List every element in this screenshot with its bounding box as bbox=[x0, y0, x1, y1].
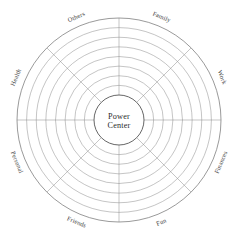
spoke-1 bbox=[137, 138, 191, 192]
wheel-of-life-diagram: Power Center FamilyWorkFinancesFunFriend… bbox=[0, 0, 238, 240]
spoke-3 bbox=[47, 138, 101, 192]
sector-label-family: Family bbox=[152, 10, 173, 24]
sector-label-friends: Friends bbox=[66, 214, 88, 228]
power-center-group: Power Center bbox=[94, 95, 144, 145]
power-center-label-line1: Power bbox=[108, 112, 130, 121]
sector-label-health: Health bbox=[9, 67, 23, 87]
sector-label-others: Others bbox=[66, 10, 86, 23]
spoke-5 bbox=[47, 48, 101, 102]
sector-label-work: Work bbox=[216, 69, 228, 86]
wheel-svg-canvas: Power Center FamilyWorkFinancesFunFriend… bbox=[0, 0, 238, 240]
spoke-7 bbox=[137, 48, 191, 102]
power-center-label-line2: Center bbox=[107, 121, 130, 130]
sector-label-fun: Fun bbox=[155, 216, 168, 227]
